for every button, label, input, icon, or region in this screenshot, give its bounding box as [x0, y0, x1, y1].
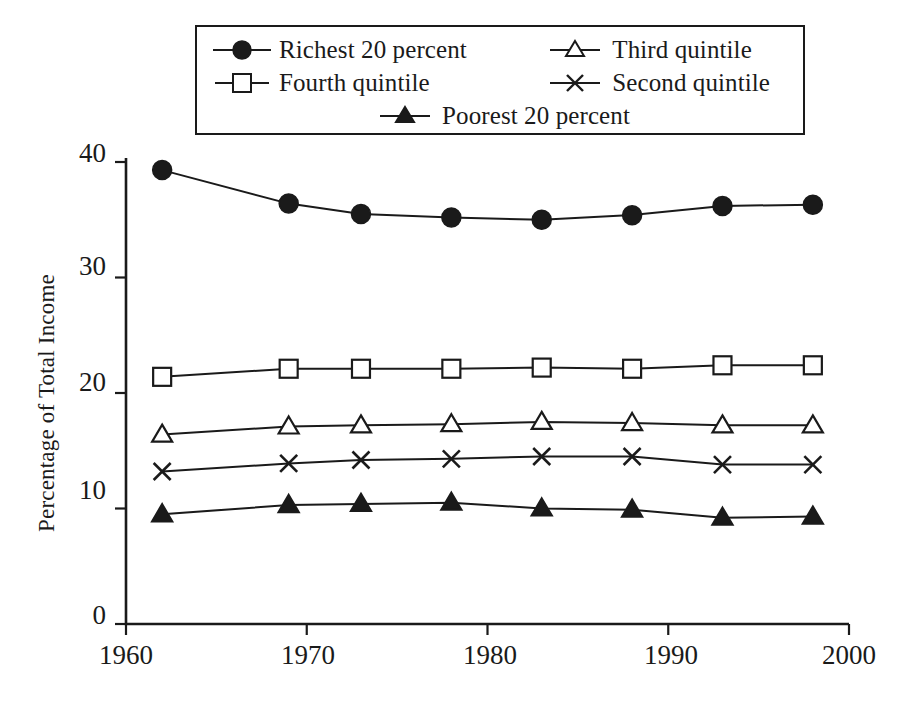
filled-triangle-marker [279, 495, 299, 512]
open-square-marker [623, 360, 641, 378]
filled-circle-marker [532, 210, 551, 229]
filled-circle-marker [713, 196, 732, 215]
legend-label-poorest: Poorest 20 percent [442, 103, 630, 129]
filled-triangle-marker [622, 500, 642, 517]
legend-label-fourth: Fourth quintile [279, 70, 430, 96]
filled-circle-marker [623, 206, 642, 225]
legend-entry-richest: Richest 20 percent [211, 37, 544, 63]
axes-layer [115, 158, 849, 635]
legend-label-second: Second quintile [612, 70, 770, 96]
open-triangle-marker-icon [544, 37, 606, 63]
filled-circle-marker [153, 161, 172, 180]
series-layer [152, 161, 823, 525]
legend-entry-poorest: Poorest 20 percent [374, 103, 630, 129]
chart-figure: Richest 20 percent Third quintile [0, 0, 915, 712]
open-triangle-marker [351, 415, 371, 432]
legend-row-3: Poorest 20 percent [211, 99, 793, 132]
open-square-marker [153, 368, 171, 386]
filled-triangle-marker [441, 493, 461, 510]
open-triangle-marker [712, 415, 732, 432]
open-square-marker [533, 359, 551, 377]
legend-entry-fourth: Fourth quintile [211, 70, 544, 96]
legend-label-richest: Richest 20 percent [279, 37, 467, 63]
legend-entry-third: Third quintile [544, 37, 793, 63]
filled-circle-marker [279, 194, 298, 213]
series-fourth-quintile [153, 356, 822, 386]
open-triangle-marker [441, 414, 461, 431]
series-third-quintile [152, 412, 823, 442]
legend-row-2: Fourth quintile Second quintile [211, 66, 793, 99]
series-poorest-20-percent [152, 493, 823, 525]
filled-triangle-marker [803, 507, 823, 524]
filled-circle-marker [442, 208, 461, 227]
legend-entry-second: Second quintile [544, 70, 793, 96]
open-square-marker [804, 356, 822, 374]
open-square-marker [442, 360, 460, 378]
series-second-quintile [154, 448, 822, 480]
filled-triangle-marker [532, 499, 552, 516]
open-triangle-marker [279, 416, 299, 433]
open-triangle-marker [532, 412, 552, 429]
filled-circle-marker [351, 204, 370, 223]
open-square-marker [280, 360, 298, 378]
chart-legend: Richest 20 percent Third quintile [195, 25, 805, 135]
open-triangle-marker [622, 413, 642, 430]
filled-circle-marker-icon [211, 37, 273, 63]
filled-triangle-marker [152, 504, 172, 521]
cross-marker-icon [544, 70, 606, 96]
legend-label-third: Third quintile [612, 37, 752, 63]
open-triangle-marker [152, 425, 172, 442]
open-square-marker [352, 360, 370, 378]
filled-circle-marker [803, 195, 822, 214]
filled-triangle-marker [351, 494, 371, 511]
series-richest-20-percent [153, 161, 823, 230]
open-square-marker [713, 356, 731, 374]
filled-triangle-marker-icon [374, 103, 436, 129]
open-square-marker-icon [211, 70, 273, 96]
legend-row-1: Richest 20 percent Third quintile [211, 33, 793, 66]
open-triangle-marker [803, 415, 823, 432]
